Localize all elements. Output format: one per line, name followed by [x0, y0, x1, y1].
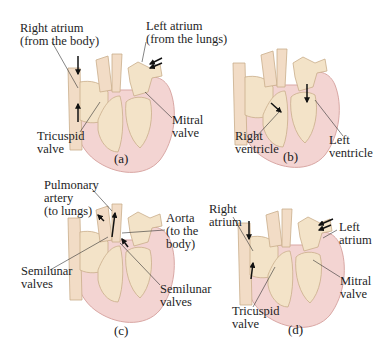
leader-line — [52, 42, 78, 88]
label-left-atrium: Left atrium — [339, 221, 372, 247]
caption-b: (b) — [283, 149, 298, 165]
label-tricuspid-valve: Tricuspid valve — [232, 305, 279, 331]
caption-c: (c) — [114, 323, 128, 339]
panel-c: Pulmonary artery (to lungs) Aorta (to th… — [0, 175, 195, 350]
panel-b: Right ventricle Left ventricle (b) — [195, 0, 390, 175]
label-aorta: Aorta (to the body) — [166, 212, 198, 251]
label-right-ventricle: Right ventricle — [235, 130, 279, 156]
label-tricuspid-valve: Tricuspid valve — [37, 130, 84, 156]
label-pulmonary-artery: Pulmonary artery (to lungs) — [44, 179, 99, 218]
label-left-ventricle: Left ventricle — [329, 134, 373, 160]
label-right-atrium: Right atrium (from the body) — [20, 22, 99, 48]
label-right-atrium: Right atrium — [209, 203, 242, 229]
panel-a: Right atrium (from the body) Left atrium… — [0, 0, 195, 175]
panel-d: Right atrium Left atrium Tricuspid valve… — [195, 175, 390, 350]
caption-a: (a) — [114, 151, 128, 167]
label-mitral-valve: Mitral valve — [340, 275, 371, 301]
label-semilunar-valves-left: Semilunar valves — [21, 265, 72, 291]
caption-d: (d) — [288, 322, 303, 338]
